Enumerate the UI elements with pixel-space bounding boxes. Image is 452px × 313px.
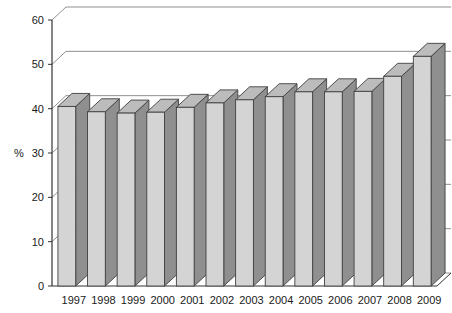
bar-front-face: [354, 91, 372, 286]
bar-front-face: [88, 112, 106, 286]
bar-2001: [176, 94, 208, 286]
x-tick-label: 2003: [239, 294, 263, 306]
bar-front-face: [413, 56, 431, 286]
x-tick-label: 2002: [210, 294, 234, 306]
bar-front-face: [117, 113, 135, 286]
bar-2000: [147, 99, 179, 286]
bar-front-face: [58, 106, 76, 286]
bar-1998: [88, 99, 120, 286]
y-tick-label: 50: [32, 58, 44, 70]
bar-2004: [265, 84, 297, 286]
x-tick-label: 2006: [328, 294, 352, 306]
x-tick-label: 2004: [269, 294, 293, 306]
y-tick-label: 0: [38, 280, 44, 292]
bar-front-face: [384, 76, 402, 286]
x-tick-label: 2007: [358, 294, 382, 306]
x-tick-label: 2001: [180, 294, 204, 306]
bar-2009: [413, 43, 445, 286]
y-axis-title: %: [14, 147, 24, 159]
bar-side-face: [431, 43, 445, 286]
y-tick-label: 20: [32, 191, 44, 203]
x-tick-label: 1998: [91, 294, 115, 306]
bar-1999: [117, 100, 149, 286]
bar-1997: [58, 93, 90, 286]
bar-front-face: [147, 112, 165, 286]
y-tick-label: 60: [32, 14, 44, 26]
bar-front-face: [265, 97, 283, 286]
x-tick-label: 2008: [387, 294, 411, 306]
bar-front-face: [236, 100, 254, 286]
x-tick-label: 1999: [121, 294, 145, 306]
x-tick-label: 1997: [62, 294, 86, 306]
bar-2007: [354, 78, 386, 286]
bar-2002: [206, 90, 238, 286]
y-tick-label: 40: [32, 103, 44, 115]
bar-front-face: [176, 107, 194, 286]
y-tick-label: 30: [32, 147, 44, 159]
x-tick-label: 2009: [417, 294, 441, 306]
y-tick-label: 10: [32, 236, 44, 248]
x-tick-label: 2005: [298, 294, 322, 306]
bar-2006: [324, 79, 356, 286]
bar-front-face: [324, 92, 342, 286]
bar-2003: [236, 87, 268, 286]
bar-chart: 0102030405060 19971998199920002001200220…: [0, 0, 452, 313]
x-tick-label: 2000: [150, 294, 174, 306]
bar-front-face: [206, 103, 224, 286]
y-axis-title-label: %: [14, 147, 24, 159]
chart-canvas: 0102030405060 19971998199920002001200220…: [0, 0, 452, 313]
bar-2008: [384, 63, 416, 286]
bar-2005: [295, 79, 327, 286]
bar-front-face: [295, 92, 313, 286]
